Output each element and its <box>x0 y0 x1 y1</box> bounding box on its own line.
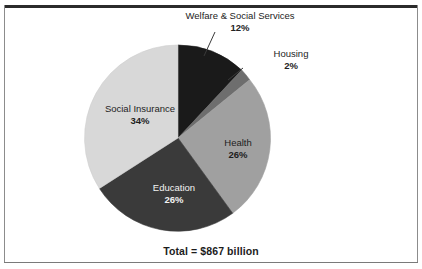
chart-total-caption: Total = $867 billion <box>0 245 422 257</box>
pie-label-health: Health 26% <box>200 137 276 161</box>
pie-label-education-percent: 26% <box>128 194 220 206</box>
pie-label-welfare-social-services: Welfare & Social Services 12% <box>137 10 343 34</box>
pie-label-social-insurance-percent: 34% <box>83 115 197 127</box>
pie-label-health-percent: 26% <box>200 149 276 161</box>
pie-label-social-insurance-name: Social Insurance <box>83 103 197 115</box>
pie-chart <box>0 0 422 269</box>
pie-label-social-insurance: Social Insurance 34% <box>83 103 197 127</box>
pie-label-education-name: Education <box>128 182 220 194</box>
pie-label-housing-percent: 2% <box>243 60 339 72</box>
pie-label-housing: Housing 2% <box>243 48 339 72</box>
pie-label-welfare-social-services-name: Welfare & Social Services <box>137 10 343 22</box>
pie-label-education: Education 26% <box>128 182 220 206</box>
pie-label-welfare-social-services-percent: 12% <box>137 22 343 34</box>
pie-label-housing-name: Housing <box>243 48 339 60</box>
pie-label-health-name: Health <box>200 137 276 149</box>
